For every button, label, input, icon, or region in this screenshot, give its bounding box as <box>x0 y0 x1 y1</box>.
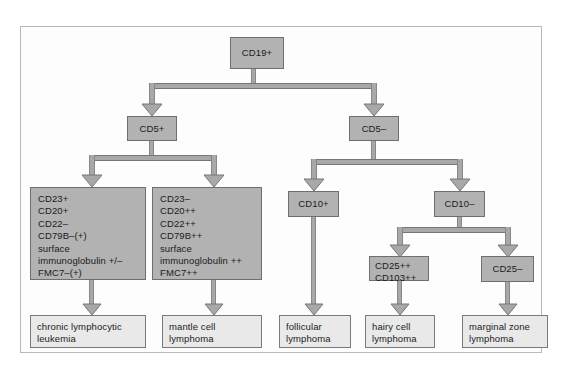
arrowhead-to-cd10neg <box>449 178 471 192</box>
diagnosis-hcl-line-2: lymphoma <box>372 333 417 345</box>
panel-cll-line-1: CD23+ <box>38 193 122 205</box>
panel-mcl-line-2: CD20++ <box>160 205 242 217</box>
panel-cll-line-4: CD79B–(+) <box>38 230 122 242</box>
diagnosis-mcl-line-2: lymphoma <box>169 333 216 345</box>
connector-right-bus <box>311 159 463 165</box>
node-cd5-positive-label: CD5+ <box>140 123 165 135</box>
arrowhead-to-cd5pos <box>141 103 163 117</box>
diagnosis-mzl-line-1: marginal zone <box>469 321 530 333</box>
panel-cll-markers[interactable]: CD23+ CD20+ CD22– CD79B–(+) surface immu… <box>30 187 146 280</box>
diagnosis-cll-line-1: chronic lymphocytic <box>37 321 122 333</box>
node-cd19-positive[interactable]: CD19+ <box>230 37 284 69</box>
panel-mcl-markers[interactable]: CD23– CD20++ CD22++ CD79B++ surface immu… <box>152 187 262 280</box>
diagnosis-fl-line-1: follicular <box>286 321 331 333</box>
diagram-frame: CD19+ CD5+ CD5– CD10+ CD10– CD25++ CD103… <box>20 26 542 353</box>
arrowhead-to-mcl-panel <box>203 174 225 188</box>
diagnosis-mcl-line-1: mantle cell <box>169 321 216 333</box>
arrowhead-to-cll-panel <box>81 174 103 188</box>
node-cd25-cd103-positive[interactable]: CD25++ CD103++ <box>369 256 429 281</box>
node-cd10-negative[interactable]: CD10– <box>434 191 485 217</box>
panel-cll-line-5: surface <box>38 243 122 255</box>
panel-mcl-line-6: immunoglobulin ++ <box>160 255 242 267</box>
diagnosis-chronic-lymphocytic-leukemia[interactable]: chronic lymphocytic leukemia <box>30 315 146 348</box>
panel-mcl-line-4: CD79B++ <box>160 230 242 242</box>
panel-cll-line-2: CD20+ <box>38 205 122 217</box>
connector-top-bus <box>149 83 377 89</box>
panel-mcl-line-3: CD22++ <box>160 218 242 230</box>
node-cd10-negative-label: CD10– <box>444 198 474 210</box>
diagnosis-mzl-line-2: lymphoma <box>469 333 530 345</box>
connector-cd10pos-stem <box>311 217 316 306</box>
connector-mcl-panel-stem <box>211 279 216 306</box>
arrowhead-to-cd10pos <box>303 178 325 192</box>
diagnosis-hcl-line-1: hairy cell <box>372 321 417 333</box>
connector-cll-panel-stem <box>89 279 94 306</box>
panel-mcl-line-7: FMC7++ <box>160 267 242 279</box>
node-cd25-cd103-line-1: CD25++ <box>375 260 416 272</box>
node-cd5-positive[interactable]: CD5+ <box>127 116 177 141</box>
panel-cll-line-6: immunoglobulin +/– <box>38 255 122 267</box>
node-cd19-positive-label: CD19+ <box>242 47 272 59</box>
panel-cll-line-7: FMC7–(+) <box>38 267 122 279</box>
panel-cll-line-3: CD22– <box>38 218 122 230</box>
panel-mcl-line-1: CD23– <box>160 193 242 205</box>
diagnosis-marginal-zone-lymphoma[interactable]: marginal zone lymphoma <box>462 315 548 348</box>
arrowhead-to-cd5neg <box>363 103 385 117</box>
diagnosis-hairy-cell-lymphoma[interactable]: hairy cell lymphoma <box>365 315 435 348</box>
connector-left-bus <box>89 155 217 161</box>
node-cd10-positive[interactable]: CD10+ <box>288 191 339 217</box>
node-cd5-negative[interactable]: CD5– <box>349 116 399 141</box>
node-cd5-negative-label: CD5– <box>362 123 387 135</box>
diagnosis-cll-line-2: leukemia <box>37 333 122 345</box>
node-cd25-cd103-line-2: CD103++ <box>375 272 416 284</box>
diagnosis-follicular-lymphoma[interactable]: follicular lymphoma <box>279 315 351 348</box>
node-cd25-negative-label: CD25– <box>492 263 522 275</box>
node-cd25-negative[interactable]: CD25– <box>481 256 534 282</box>
diagnosis-mantle-cell-lymphoma[interactable]: mantle cell lymphoma <box>162 315 262 348</box>
diagnosis-fl-line-2: lymphoma <box>286 333 331 345</box>
node-cd10-positive-label: CD10+ <box>298 198 328 210</box>
panel-mcl-line-5: surface <box>160 243 242 255</box>
connector-cd10neg-bus <box>397 227 511 233</box>
